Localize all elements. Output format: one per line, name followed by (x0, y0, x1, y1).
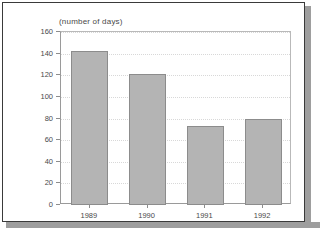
x-axis-tick-mark (89, 204, 90, 208)
bar (71, 51, 108, 205)
y-axis-tick-label: 100 (40, 91, 53, 100)
figure-shadow-bottom (6, 222, 320, 228)
x-axis-tick-label: 1990 (127, 211, 167, 220)
gridline (61, 32, 290, 33)
chart-title: (number of days) (59, 17, 123, 26)
x-axis-tick-label: 1992 (242, 211, 282, 220)
y-axis-tick-mark (56, 204, 60, 205)
y-axis-tick-label: 40 (45, 156, 53, 165)
x-axis-tick-label: 1991 (184, 211, 224, 220)
bar (129, 74, 166, 205)
x-axis-tick-mark (204, 204, 205, 208)
figure-root: (number of days) 020406080100120140160 1… (0, 0, 320, 235)
y-axis-tick-label: 80 (45, 113, 53, 122)
plot-area (60, 31, 291, 204)
y-axis-tick-label: 60 (45, 135, 53, 144)
bar (187, 126, 224, 205)
y-axis-tick-label: 160 (40, 27, 53, 36)
figure-shadow-right (305, 6, 311, 228)
y-axis-tick-label: 140 (40, 48, 53, 57)
x-axis-tick-label: 1989 (69, 211, 109, 220)
x-axis-tick-mark (262, 204, 263, 208)
figure-frame: (number of days) 020406080100120140160 1… (2, 2, 305, 222)
y-axis-tick-label: 20 (45, 178, 53, 187)
y-axis-tick-label: 120 (40, 70, 53, 79)
y-axis-tick-label: 0 (49, 200, 53, 209)
bar (245, 119, 282, 206)
x-axis-tick-mark (147, 204, 148, 208)
